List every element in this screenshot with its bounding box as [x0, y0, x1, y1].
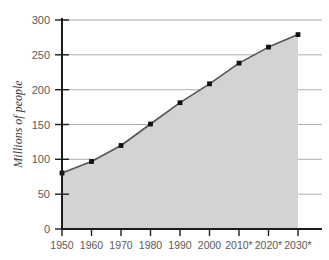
population-area-chart: 300 250 200 150 100 50 0 1950 1960 1970 …: [0, 0, 329, 260]
y-tick-labels: 300 250 200 150 100 50 0: [32, 14, 50, 235]
x-tick-label-2030: 2030*: [284, 239, 311, 251]
x-tick-label-2020: 2020*: [255, 239, 282, 251]
y-tick-label-200: 200: [32, 84, 50, 96]
data-point-2030: [296, 32, 301, 37]
data-point-1990: [178, 100, 183, 105]
series-area-fill: [62, 35, 298, 229]
y-tick-label-0: 0: [44, 223, 50, 235]
y-tick-label-150: 150: [32, 119, 50, 131]
y-axis-title: Millions of people: [11, 80, 25, 169]
data-point-1960: [89, 159, 94, 164]
x-tick-label-1990: 1990: [168, 239, 192, 251]
chart-canvas: 300 250 200 150 100 50 0 1950 1960 1970 …: [0, 0, 329, 260]
x-tick-labels: 1950 1960 1970 1980 1990 2000 2010* 2020…: [50, 239, 311, 251]
x-tick-label-1970: 1970: [109, 239, 133, 251]
data-point-2000: [207, 81, 212, 86]
y-tick-label-300: 300: [32, 14, 50, 26]
y-tick-label-50: 50: [38, 188, 50, 200]
x-tick-label-2000: 2000: [198, 239, 222, 251]
data-point-2020: [266, 45, 271, 50]
y-tick-label-250: 250: [32, 49, 50, 61]
y-tick-label-100: 100: [32, 153, 50, 165]
x-tick-label-2010: 2010*: [225, 239, 252, 251]
data-point-1970: [119, 143, 124, 148]
x-tick-label-1950: 1950: [50, 239, 74, 251]
x-tick-marks: [62, 229, 298, 236]
x-tick-label-1980: 1980: [139, 239, 163, 251]
data-point-1980: [148, 122, 153, 127]
data-point-2010: [237, 61, 242, 66]
x-tick-label-1960: 1960: [80, 239, 104, 251]
